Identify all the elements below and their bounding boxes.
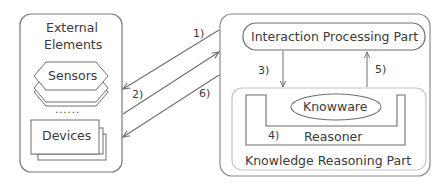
interaction-processing-label: Interaction Processing Part xyxy=(251,29,418,44)
arrow-4-label: 4) xyxy=(268,129,279,142)
external-title-line1: External xyxy=(46,20,98,35)
sensors-label: Sensors xyxy=(48,68,97,83)
knowledge-reasoning-label: Knowledge Reasoning Part xyxy=(245,153,411,168)
devices-label: Devices xyxy=(42,128,91,143)
arrow-1-label: 1) xyxy=(193,27,204,40)
arrow-2 xyxy=(123,52,219,114)
arrow-2-label: 2) xyxy=(132,88,143,101)
knowware-label: Knowware xyxy=(303,99,367,114)
arrow-3-label: 3) xyxy=(258,64,269,77)
reasoner-label: Reasoner xyxy=(304,129,362,144)
external-title-line2: Elements xyxy=(44,37,102,52)
arrow-6 xyxy=(123,75,219,137)
arrow-1 xyxy=(123,30,219,89)
arrow-6-label: 6) xyxy=(199,87,210,100)
arrow-5-label: 5) xyxy=(375,63,386,76)
ellipsis-label: ...... xyxy=(55,104,80,115)
